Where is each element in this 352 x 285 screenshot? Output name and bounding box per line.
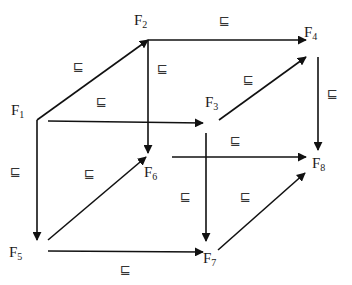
- edge-f7-to-f8: [218, 173, 305, 250]
- node-label-f6: F6: [144, 165, 157, 182]
- node-label-f4: F4: [304, 25, 317, 42]
- node-subscript: 8: [320, 162, 325, 173]
- relation-label-f3-f7: ⊑: [180, 190, 191, 203]
- node-subscript: 1: [19, 109, 24, 120]
- relation-label-f5-f7: ⊑: [120, 263, 131, 276]
- relation-label-f1-f2: ⊑: [73, 60, 84, 73]
- relation-label-f2-f4: ⊑: [219, 14, 230, 27]
- node-label-f2: F2: [134, 13, 147, 30]
- edge-f3-to-f4: [219, 57, 306, 120]
- node-label-f3: F3: [205, 95, 218, 112]
- edge-f1-to-f2: [37, 40, 148, 120]
- relation-label-f1-f5: ⊑: [10, 165, 21, 178]
- relation-label-f3-f4: ⊑: [243, 73, 254, 86]
- edge-f1-to-f3: [48, 121, 203, 123]
- node-subscript: 6: [152, 171, 157, 182]
- relation-label-f6-f8: ⊑: [230, 134, 241, 147]
- lattice-cube-diagram: [0, 0, 352, 285]
- node-label-f5: F5: [9, 245, 22, 262]
- node-subscript: 7: [211, 257, 216, 268]
- relation-label-f2-f6: ⊑: [157, 62, 168, 75]
- node-subscript: 2: [142, 19, 147, 30]
- node-subscript: 4: [312, 31, 317, 42]
- node-subscript: 3: [213, 101, 218, 112]
- edge-f5-to-f6: [48, 157, 146, 240]
- relation-label-f7-f8: ⊑: [240, 190, 251, 203]
- relation-label-f4-f8: ⊑: [327, 87, 338, 100]
- node-label-f1: F1: [11, 103, 24, 120]
- node-label-f8: F8: [312, 156, 325, 173]
- edge-f5-to-f7: [48, 251, 203, 252]
- node-label-f7: F7: [203, 251, 216, 268]
- relation-label-f1-f3: ⊑: [96, 95, 107, 108]
- relation-label-f5-f6: ⊑: [84, 167, 95, 180]
- node-subscript: 5: [17, 251, 22, 262]
